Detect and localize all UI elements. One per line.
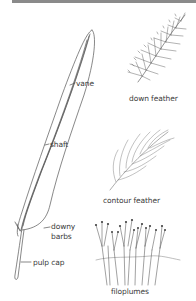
- label-down-feather: down feather: [129, 94, 178, 103]
- label-contour-feather: contour feather: [103, 196, 160, 205]
- contour-feather-drawing: [110, 130, 174, 190]
- label-pulp-cap: pulp cap: [33, 258, 64, 267]
- label-shaft: shaft: [50, 140, 68, 149]
- label-downy: downy: [51, 222, 75, 231]
- label-vane: vane: [76, 79, 94, 88]
- feather-illustration: [0, 0, 196, 301]
- downy-barbs-leader-line: [44, 227, 50, 228]
- filoplumes-drawing: [95, 219, 180, 285]
- shaft-leader-line: [45, 144, 49, 145]
- down-feather-drawing: [128, 13, 186, 82]
- main-feather: [15, 30, 95, 279]
- label-filoplumes: filoplumes: [111, 287, 149, 296]
- label-barbs: barbs: [51, 232, 72, 241]
